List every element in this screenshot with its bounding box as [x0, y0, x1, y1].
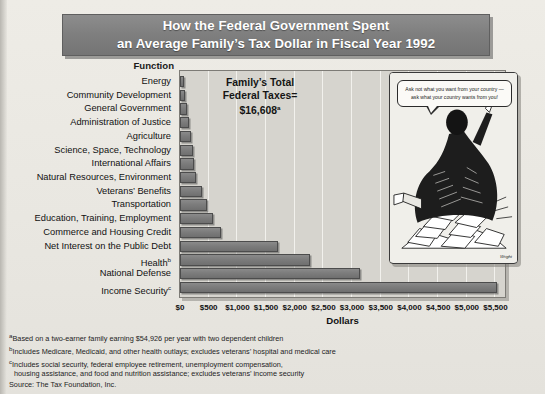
bar — [180, 76, 184, 87]
footnote-c-line-1: cIncludes social security, federal emplo… — [9, 357, 429, 370]
category-label: Commerce and Housing Credit — [0, 226, 174, 240]
bar — [180, 172, 196, 183]
editorial-cartoon-panel: Ask not what you want from your country … — [389, 72, 518, 264]
bar-row — [180, 267, 506, 281]
total-line-3: $16,608a — [196, 102, 324, 118]
speech-bubble-tail — [426, 106, 440, 115]
bar — [180, 103, 187, 114]
bar — [180, 254, 310, 265]
footnote-b: bIncludes Medicare, Medicaid, and other … — [9, 344, 429, 357]
footnote-a: aBased on a two-earner family earning $5… — [9, 331, 429, 344]
x-tick-label: $5,000 — [455, 303, 479, 312]
page-title: How the Federal Government Spent an Aver… — [62, 14, 490, 56]
category-label: Education, Training, Employment — [0, 212, 174, 226]
x-axis-label: Dollars — [179, 315, 506, 326]
x-tick-label: $2,000 — [282, 303, 306, 312]
category-footnote-marker: c — [168, 284, 171, 291]
title-line-2: an Average Family’s Tax Dollar in Fiscal… — [117, 35, 435, 53]
footnote-c-line-2: housing assistance, and food and nutriti… — [9, 369, 429, 378]
category-label: Income Securityc — [0, 281, 174, 295]
x-tick-label: $4,500 — [426, 303, 450, 312]
category-label: Science, Space, Technology — [0, 144, 174, 158]
category-label: Transportation — [0, 198, 174, 212]
bar — [180, 117, 189, 128]
title-line-1: How the Federal Government Spent — [163, 17, 390, 35]
source-line: Source: The Tax Foundation, Inc. — [9, 380, 429, 389]
category-label: Natural Resources, Environment — [0, 171, 174, 185]
x-tick-label: $3,500 — [369, 303, 393, 312]
bar — [180, 282, 497, 293]
total-line-2: Federal Taxes= — [196, 90, 324, 103]
x-tick-label: $5,500 — [483, 303, 507, 312]
total-line-1: Family’s Total — [196, 77, 324, 90]
category-label: Veterans’ Benefits — [0, 185, 174, 199]
category-label: International Affairs — [0, 157, 174, 171]
footnotes-block: aBased on a two-earner family earning $5… — [9, 331, 429, 389]
bar — [180, 268, 360, 279]
bar — [180, 186, 202, 197]
speech-bubble: Ask not what you want from your country … — [397, 80, 512, 107]
category-label: Community Development — [0, 89, 174, 103]
category-label: Healthb — [0, 253, 174, 267]
bar — [180, 131, 191, 142]
bar — [180, 90, 185, 101]
poster-page: How the Federal Government Spent an Aver… — [0, 0, 545, 394]
bar — [180, 241, 278, 252]
x-axis-ticks: $0$500$1,000$1,500$2,000$2,500$3,000$3,5… — [0, 303, 545, 315]
x-tick-label: $500 — [200, 303, 218, 312]
category-footnote-marker: b — [168, 256, 171, 263]
category-label: National Defense — [0, 267, 174, 281]
category-label-column: EnergyCommunity DevelopmentGeneral Gover… — [0, 75, 174, 296]
x-tick-label: $1,000 — [225, 303, 249, 312]
category-label: Administration of Justice — [0, 116, 174, 130]
bar — [180, 227, 221, 238]
x-tick-label: $0 — [176, 303, 185, 312]
x-tick-label: $2,500 — [311, 303, 335, 312]
bar — [180, 213, 213, 224]
x-tick-label: $1,500 — [254, 303, 278, 312]
category-label: General Government — [0, 102, 174, 116]
category-label: Net Interest on the Public Debt — [0, 240, 174, 254]
category-label: Energy — [0, 75, 174, 89]
bar — [180, 199, 207, 210]
x-tick-label: $3,000 — [340, 303, 364, 312]
category-label: Agriculture — [0, 130, 174, 144]
x-tick-label: $4,000 — [397, 303, 421, 312]
axis-header-function: Function — [0, 60, 174, 71]
total-taxes-annotation: Family’s Total Federal Taxes= $16,608a — [196, 77, 324, 118]
bar-row — [180, 281, 506, 295]
cartoonist-signature: Wright — [500, 254, 512, 259]
bar — [180, 145, 193, 156]
bar — [180, 158, 194, 169]
